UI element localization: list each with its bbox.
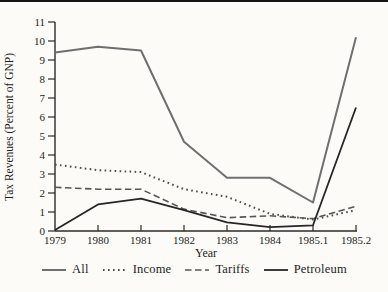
y-tick-label: 9 [40, 54, 46, 66]
y-tick-label: 3 [40, 168, 46, 180]
legend-sample-solid-line [263, 264, 289, 275]
legend: AllIncomeTariffsPetroleum [0, 262, 388, 277]
x-tick-label: 1981 [130, 234, 152, 246]
legend-item-petroleum: Petroleum [263, 262, 347, 277]
x-axis-title: Year [195, 246, 217, 260]
legend-sample-solid-line [41, 264, 67, 275]
y-axis-title: Tax Revenues (Percent of GNP) [3, 53, 16, 201]
legend-item-tariffs: Tariffs [184, 262, 249, 277]
scan-artifact-line [0, 0, 388, 2]
y-tick-label: 7 [40, 92, 46, 104]
legend-sample-dotted-line [102, 264, 128, 275]
legend-label-tariffs: Tariffs [215, 262, 249, 277]
series-line-tariffs [55, 187, 356, 218]
y-tick-label: 5 [40, 130, 46, 142]
y-tick-label: 2 [40, 187, 46, 199]
legend-item-all: All [41, 262, 89, 277]
y-tick-label: 4 [40, 149, 46, 161]
series-line-all [55, 37, 356, 202]
legend-label-all: All [72, 262, 89, 277]
x-tick-label: 1985.1 [298, 234, 328, 246]
tax-revenues-chart: 0123456789101119791980198119821983198419… [0, 0, 388, 292]
y-tick-label: 8 [40, 73, 46, 85]
legend-label-income: Income [133, 262, 172, 277]
y-tick-label: 1 [40, 206, 46, 218]
series-lines [55, 37, 356, 230]
x-tick-label: 1982 [173, 234, 195, 246]
y-tick-label: 6 [40, 111, 46, 123]
y-tick-label: 11 [34, 16, 45, 28]
legend-item-income: Income [102, 262, 172, 277]
legend-sample-dashed-line [184, 264, 210, 275]
x-tick-label: 1985.2 [341, 234, 371, 246]
x-tick-label: 1979 [44, 234, 67, 246]
legend-label-petroleum: Petroleum [294, 262, 347, 277]
y-tick-label: 10 [34, 35, 46, 47]
x-tick-label: 1983 [216, 234, 239, 246]
x-tick-label: 1980 [87, 234, 110, 246]
series-line-income [55, 165, 356, 220]
series-line-petroleum [55, 108, 356, 231]
plot-area: 0123456789101119791980198119821983198419… [0, 0, 388, 260]
x-tick-label: 1984 [259, 234, 282, 246]
